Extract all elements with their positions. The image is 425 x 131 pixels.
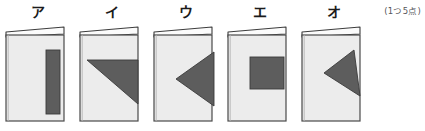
figure-label-e: エ [224, 3, 296, 21]
worksheet-figure-panel: (1つ5点) ア イ [0, 0, 425, 131]
figure-label-i: イ [76, 3, 148, 21]
figure-label-o: オ [298, 3, 370, 21]
figure-label-a: ア [2, 3, 74, 21]
figure-choice-u[interactable]: ウ [150, 0, 222, 131]
shaded-square-e [250, 57, 284, 89]
figure-drawing-o [298, 24, 370, 128]
shaded-vertical-rectangle-a [46, 50, 60, 114]
figure-drawing-u [150, 24, 222, 128]
figure-label-u: ウ [150, 3, 222, 21]
figure-choice-e[interactable]: エ [224, 0, 296, 131]
figure-drawing-e [224, 24, 296, 128]
figure-choice-row: ア イ ウ [0, 0, 425, 131]
figure-choice-o[interactable]: オ [298, 0, 370, 131]
figure-drawing-i [76, 24, 148, 128]
figure-choice-a[interactable]: ア [2, 0, 74, 131]
figure-choice-i[interactable]: イ [76, 0, 148, 131]
figure-drawing-a [2, 24, 74, 128]
